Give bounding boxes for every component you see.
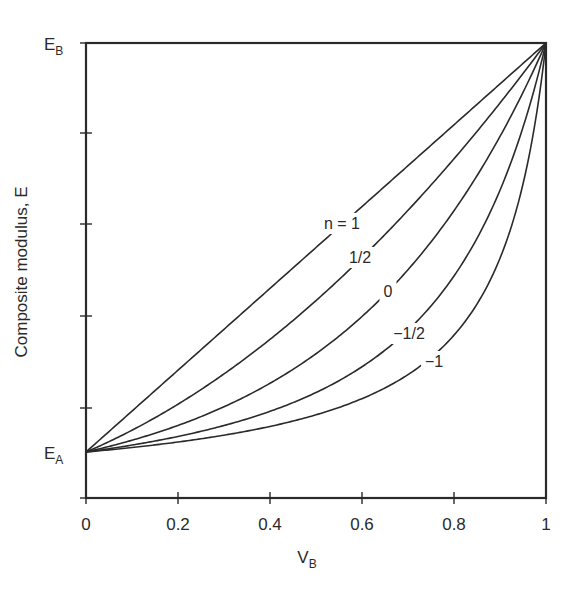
x-tick-label: 1 [541,515,550,534]
y-axis-label: Composite modulus, E [12,186,31,357]
x-tick-label: 0.2 [166,515,190,534]
x-tick-label: 0.4 [258,515,282,534]
curve-label: −1/2 [393,325,425,342]
x-axis-label: VB [297,548,316,571]
curve-label: 0 [384,283,393,300]
curves-group [86,43,546,452]
curve-label: 1/2 [349,249,371,266]
curve-label: −1 [425,353,443,370]
x-tick-label: 0 [81,515,90,534]
x-tick-label: 0.6 [350,515,374,534]
y-top-label: EB [44,35,63,58]
plot-frame [86,43,546,498]
curve-labels-group: n = 11/20−1/2−1 [316,213,448,372]
x-tick-labels: 00.20.40.60.81 [81,515,550,534]
composite-modulus-chart: n = 11/20−1/2−1 00.20.40.60.81 EB EA Com… [0,0,579,596]
y-bottom-label: EA [44,444,63,467]
x-tick-label: 0.8 [442,515,466,534]
curve-label: n = 1 [324,215,360,232]
curve-n-n-1 [86,43,546,452]
